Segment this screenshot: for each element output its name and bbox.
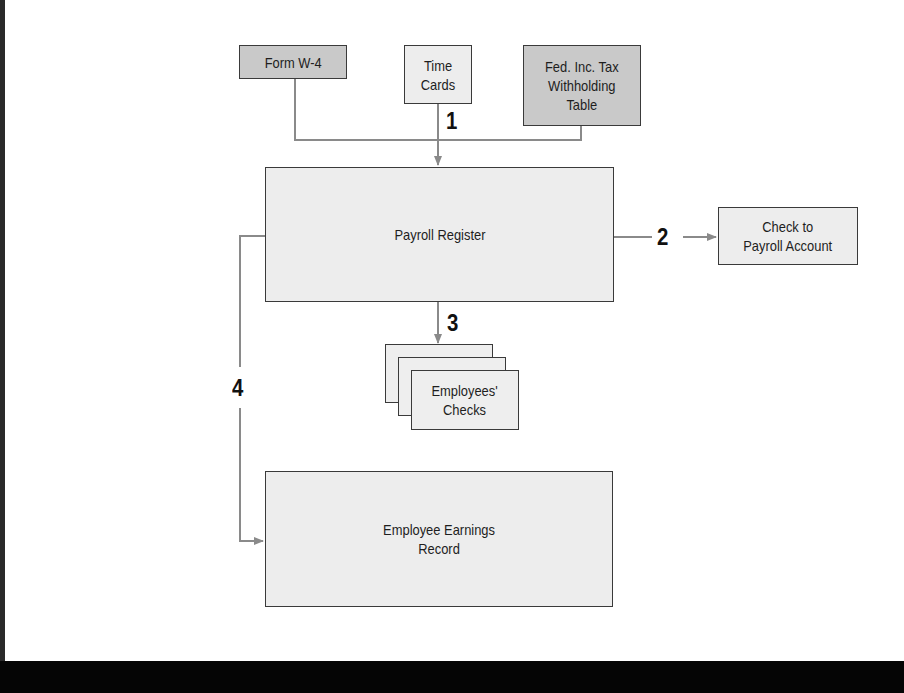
node-label: Form W-4 [264, 53, 321, 72]
node-label: Employee Earnings Record [383, 520, 495, 558]
node-label: Check to Payroll Account [744, 217, 833, 255]
step-number-2: 2 [657, 223, 668, 251]
node-employees-checks: Employees' Checks [411, 370, 519, 430]
node-time-cards: Time Cards [404, 45, 472, 104]
step-number-1: 1 [446, 107, 457, 135]
bottom-black-bar [0, 661, 904, 693]
node-label: Fed. Inc. Tax Withholding Table [545, 57, 619, 114]
node-label: Employees' Checks [432, 381, 498, 419]
edge-register-to-earnings-record [240, 236, 265, 541]
node-form-w4: Form W-4 [239, 45, 347, 79]
node-label: Time Cards [421, 56, 455, 94]
node-payroll-register: Payroll Register [265, 167, 614, 302]
step-number-4: 4 [232, 374, 243, 402]
node-check-to-payroll-account: Check to Payroll Account [718, 207, 858, 265]
step-number-3: 3 [447, 309, 458, 337]
node-employee-earnings-record: Employee Earnings Record [265, 471, 613, 607]
node-fed-withholding-table: Fed. Inc. Tax Withholding Table [523, 45, 641, 126]
node-label: Payroll Register [394, 225, 485, 244]
